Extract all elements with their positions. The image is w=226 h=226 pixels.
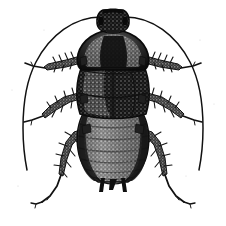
cockroach-illustration (0, 0, 226, 226)
right-coxa (139, 56, 146, 66)
left-coxa (80, 56, 87, 66)
left-mid-coxa (80, 94, 88, 104)
illustration-canvas: cockroach dorsal black-and-white line en… (0, 0, 226, 226)
cerci-group (97, 178, 129, 192)
pronotum-dark-center (100, 36, 127, 68)
left-eye (98, 17, 103, 25)
right-mid-coxa (138, 94, 146, 104)
left-hind-coxa (82, 124, 91, 134)
right-hind-coxa (135, 124, 144, 134)
right-eye (122, 17, 127, 25)
